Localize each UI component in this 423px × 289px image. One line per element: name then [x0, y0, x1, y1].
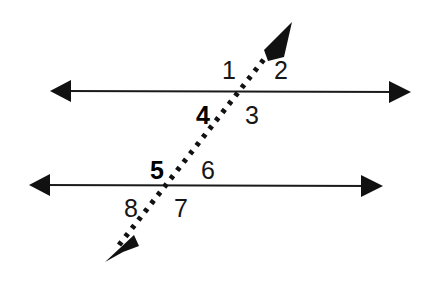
- angle-label-8: 8: [124, 196, 138, 221]
- upper-line-right-arrowhead: [389, 81, 411, 103]
- transversal-line: [119, 40, 279, 245]
- angle-label-6: 6: [201, 158, 215, 183]
- transversal-lower-arrowhead: [105, 235, 139, 262]
- lower-parallel-line: [42, 185, 372, 186]
- angle-label-3: 3: [245, 103, 259, 128]
- angle-label-4: 4: [196, 103, 210, 128]
- lower-line-left-arrowhead: [29, 174, 50, 196]
- upper-parallel-line: [63, 91, 400, 92]
- geometry-canvas: [0, 0, 423, 289]
- angle-label-5: 5: [150, 158, 164, 183]
- angle-label-1: 1: [222, 58, 236, 83]
- upper-line-left-arrowhead: [50, 80, 71, 102]
- geometry-diagram: 1 2 4 3 5 6 8 7: [0, 0, 423, 289]
- angle-label-7: 7: [174, 196, 188, 221]
- lower-line-right-arrowhead: [361, 175, 383, 197]
- angle-label-2: 2: [274, 58, 288, 83]
